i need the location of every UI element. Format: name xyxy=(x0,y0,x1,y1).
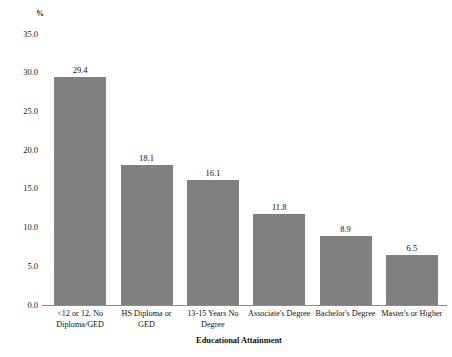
x-axis-category-label-line: Diploma/GED xyxy=(47,320,113,331)
bar[interactable]: 8.9 xyxy=(320,236,372,305)
bar-rect[interactable] xyxy=(121,165,173,305)
bar-value-label: 8.9 xyxy=(320,224,372,234)
bar-rect[interactable] xyxy=(54,77,106,305)
x-axis-category-label-line: Associate's Degree xyxy=(246,309,312,320)
x-axis-category-label: Master's or Higher xyxy=(379,309,445,320)
bar[interactable]: 6.5 xyxy=(386,255,438,305)
bar[interactable]: 29.4 xyxy=(54,77,106,305)
x-axis-category-label: 13-15 Years NoDegree xyxy=(180,309,246,330)
bar-value-label: 16.1 xyxy=(187,168,239,178)
x-axis-category-label-line: Bachelor's Degree xyxy=(312,309,378,320)
bar-rect[interactable] xyxy=(253,214,305,305)
bar-rect[interactable] xyxy=(187,180,239,305)
bar[interactable]: 16.1 xyxy=(187,180,239,305)
bar[interactable]: 18.1 xyxy=(121,165,173,305)
bars-container: 29.418.116.111.88.96.5 xyxy=(0,0,452,357)
x-axis-category-label: <12 or 12, NoDiploma/GED xyxy=(47,309,113,330)
bar-rect[interactable] xyxy=(386,255,438,305)
x-axis-category-label-line: 13-15 Years No xyxy=(180,309,246,320)
x-axis-category-label-line: Master's or Higher xyxy=(379,309,445,320)
bar-value-label: 11.8 xyxy=(253,202,305,212)
x-axis-category-label-line: HS Diploma or GED xyxy=(113,309,179,330)
x-axis-category-label: Bachelor's Degree xyxy=(312,309,378,320)
x-axis-category-label: Associate's Degree xyxy=(246,309,312,320)
bar-value-label: 6.5 xyxy=(386,243,438,253)
bar-chart: % 35.030.025.020.015.010.05.00.0 29.418.… xyxy=(0,0,452,357)
x-axis-category-label-line: <12 or 12, No xyxy=(47,309,113,320)
bar-value-label: 29.4 xyxy=(54,65,106,75)
bar[interactable]: 11.8 xyxy=(253,214,305,305)
bar-value-label: 18.1 xyxy=(121,153,173,163)
x-axis-title: Educational Attainment xyxy=(0,336,452,345)
x-axis-category-label-line: Degree xyxy=(180,320,246,331)
x-axis-category-label: HS Diploma or GED xyxy=(113,309,179,330)
bar-rect[interactable] xyxy=(320,236,372,305)
